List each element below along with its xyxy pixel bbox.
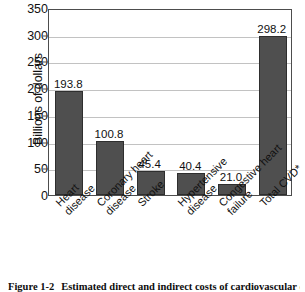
y-tick-label: 0	[6, 189, 48, 203]
y-tick-label: 350	[6, 2, 48, 16]
gridline	[49, 37, 291, 38]
gridline	[49, 90, 291, 91]
y-tick-mark	[43, 89, 48, 90]
y-tick-label: 200	[6, 82, 48, 96]
bar-value-label: 193.8	[54, 78, 83, 90]
bar-value-label: 100.8	[95, 128, 124, 140]
y-tick-mark	[43, 35, 48, 36]
figure-number: Figure 1-2	[8, 281, 54, 292]
gridline	[49, 144, 291, 145]
y-tick-label: 300	[6, 29, 48, 43]
y-tick-mark	[43, 115, 48, 116]
y-tick-label: 100	[6, 136, 48, 150]
y-tick-mark	[43, 169, 48, 170]
bar-value-label: 40.4	[179, 160, 201, 172]
figure-container: Billions of dollars 35030025020015010050…	[0, 0, 305, 292]
bar-value-label: 298.2	[257, 23, 286, 35]
y-tick-label: 150	[6, 109, 48, 123]
figure-caption-text: Estimated direct and indirect costs of c…	[61, 281, 300, 292]
y-tick-mark	[43, 62, 48, 63]
gridline	[49, 63, 291, 64]
gridline	[49, 117, 291, 118]
y-tick-label: 50	[6, 162, 48, 176]
y-tick-label: 250	[6, 55, 48, 69]
y-tick-mark	[43, 142, 48, 143]
figure-caption: Figure 1-2Estimated direct and indirect …	[8, 281, 300, 292]
